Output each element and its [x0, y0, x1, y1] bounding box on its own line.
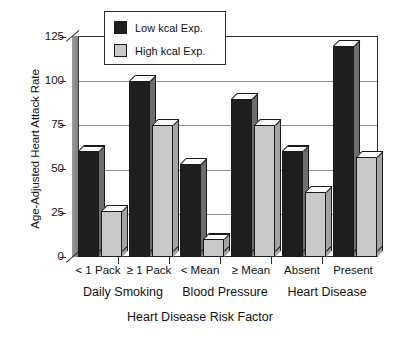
- bar-front-face: [305, 192, 326, 257]
- legend-label-high-kcal: High kcal Exp.: [135, 45, 205, 57]
- axis-wall-top-bevel: [66, 30, 79, 42]
- y-tick-mark-100: [60, 81, 66, 82]
- bar-front-face: [254, 125, 275, 257]
- bar-present-high-kcal-exp: [356, 151, 383, 257]
- bar-edge: [186, 158, 207, 159]
- bar-edge: [331, 186, 332, 251]
- bar-front-face: [282, 151, 303, 257]
- bar-1-pack-high-kcal-exp: [101, 205, 128, 257]
- legend-item-high-kcal: High kcal Exp.: [114, 43, 205, 58]
- y-tick-mark-75: [60, 125, 66, 126]
- bar-front-face: [231, 99, 252, 257]
- bar-front-face: [78, 151, 99, 257]
- bar-absent-high-kcal-exp: [305, 186, 332, 257]
- bar-front-face: [129, 81, 150, 257]
- y-tick-mark-50: [60, 169, 66, 170]
- bar-edge: [178, 119, 179, 251]
- x-tick-mark-3: [220, 257, 221, 264]
- y-tick-label-75: 75: [28, 119, 64, 130]
- bar-edge: [362, 151, 383, 152]
- x-tick-mark-5: [322, 257, 323, 264]
- y-tick-mark-0: [60, 257, 66, 258]
- bar-1-pack-high-kcal-exp: [152, 119, 179, 257]
- x-axis-title: Heart Disease Risk Factor: [0, 310, 400, 324]
- bar-edge: [382, 151, 383, 251]
- chart-figure: Age-Adjusted Heart Attack Rate 125 100 7…: [0, 0, 400, 340]
- chart-legend: Low kcal Exp. High kcal Exp.: [104, 11, 226, 65]
- legend-label-low-kcal: Low kcal Exp.: [135, 22, 203, 34]
- gridline-100: [73, 81, 377, 82]
- bar-edge: [229, 233, 230, 251]
- bar-front-face: [333, 46, 354, 257]
- bar-front-face: [101, 211, 122, 257]
- y-tick-label-0: 0: [28, 251, 64, 262]
- x-tick-label-present: Present: [323, 264, 383, 276]
- y-tick-mark-25: [60, 213, 66, 214]
- gridline-50: [73, 170, 377, 171]
- bar-edge: [280, 119, 281, 251]
- bar-edge: [339, 40, 360, 41]
- legend-item-low-kcal: Low kcal Exp.: [114, 20, 203, 35]
- bar-mean-high-kcal-exp: [203, 233, 230, 257]
- bar-front-face: [203, 239, 224, 257]
- bar-edge: [135, 75, 156, 76]
- y-tick-label-25: 25: [28, 207, 64, 218]
- bar-edge: [237, 93, 258, 94]
- y-tick-label-100: 100: [28, 75, 64, 86]
- x-tick-mark-4: [271, 257, 272, 264]
- x-tick-mark-2: [169, 257, 170, 264]
- legend-swatch-low-kcal: [114, 21, 127, 34]
- y-tick-label-125: 125: [28, 31, 64, 42]
- x-group-label-heart-disease: Heart Disease: [267, 285, 387, 299]
- bar-front-face: [180, 164, 201, 257]
- bar-edge: [158, 119, 179, 120]
- x-tick-mark-1: [118, 257, 119, 264]
- y-tick-mark-125: [60, 37, 66, 38]
- bar-edge: [311, 186, 332, 187]
- legend-swatch-high-kcal: [114, 44, 127, 57]
- bar-edge: [260, 119, 281, 120]
- bar-front-face: [356, 157, 377, 257]
- bar-front-face: [152, 125, 173, 257]
- gridline-75: [73, 125, 377, 126]
- bar-mean-high-kcal-exp: [254, 119, 281, 257]
- y-tick-label-50: 50: [28, 163, 64, 174]
- y-axis-title: Age-Adjusted Heart Attack Rate: [29, 29, 41, 269]
